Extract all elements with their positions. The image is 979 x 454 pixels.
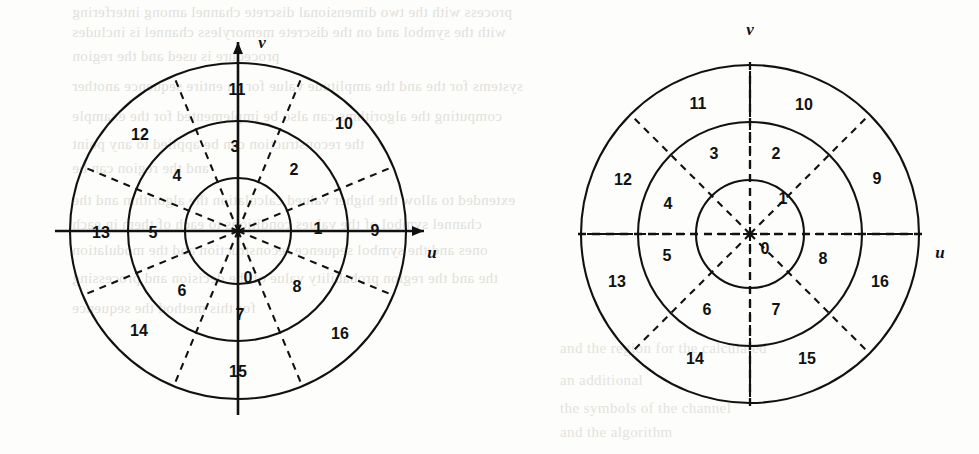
radial-divider-157.5deg [83, 167, 238, 231]
region-label-5: 5 [663, 247, 672, 264]
radial-divider-135deg [630, 114, 750, 234]
region-label-14: 14 [130, 322, 148, 339]
left-v-axis-arrow [233, 42, 243, 54]
region-label-9: 9 [371, 222, 380, 239]
right-u-axis-label: u [935, 243, 944, 262]
region-label-8: 8 [293, 278, 302, 295]
region-label-13: 13 [92, 224, 110, 241]
region-label-13: 13 [608, 273, 626, 290]
region-label-11: 11 [229, 81, 246, 98]
radial-divider-45deg [750, 114, 870, 234]
region-label-16: 16 [871, 273, 889, 290]
region-label-3: 3 [710, 145, 719, 162]
region-label-12: 12 [614, 171, 632, 188]
region-label-0: 0 [244, 269, 253, 286]
radial-divider-112.5deg [174, 76, 238, 231]
region-label-0: 0 [761, 240, 770, 257]
region-label-4: 4 [664, 195, 673, 212]
region-label-1: 1 [314, 220, 323, 237]
region-label-14: 14 [686, 350, 704, 367]
radial-divider-225deg [630, 234, 750, 354]
radial-divider-292.5deg [238, 231, 302, 386]
region-label-6: 6 [178, 282, 187, 299]
region-label-10: 10 [335, 115, 353, 132]
figure-container: process with the two dimensional discret… [0, 0, 979, 454]
region-label-11: 11 [690, 95, 707, 112]
region-label-9: 9 [873, 170, 882, 187]
region-label-7: 7 [772, 301, 781, 318]
region-label-4: 4 [173, 167, 182, 184]
left-v-axis-label: v [258, 33, 266, 52]
right-partition-diagram: u v 012345678910111213141516 [490, 0, 979, 454]
region-label-8: 8 [819, 250, 828, 267]
region-label-3: 3 [231, 138, 240, 155]
left-u-axis-label: u [427, 243, 436, 262]
region-label-5: 5 [149, 224, 158, 241]
region-label-6: 6 [703, 301, 712, 318]
left-u-axis-arrow [412, 226, 424, 236]
region-label-15: 15 [798, 350, 816, 367]
region-label-2: 2 [290, 161, 299, 178]
region-label-1: 1 [779, 190, 788, 207]
right-region-labels: 012345678910111213141516 [608, 95, 889, 367]
region-label-7: 7 [236, 306, 245, 323]
radial-divider-337.5deg [238, 231, 393, 295]
region-label-10: 10 [795, 96, 813, 113]
radial-divider-67.5deg [238, 76, 302, 231]
right-v-axis-label: v [746, 20, 754, 39]
region-label-16: 16 [331, 325, 349, 342]
left-partition-diagram: u v 012345678910111213141516 [0, 0, 490, 454]
region-label-15: 15 [229, 363, 247, 380]
region-label-12: 12 [131, 126, 149, 143]
region-label-2: 2 [772, 145, 781, 162]
